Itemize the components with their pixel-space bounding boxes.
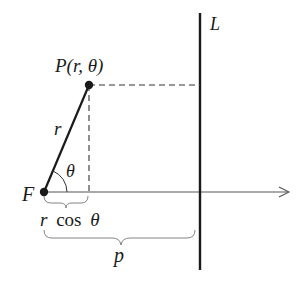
point-p-label: P(r, θ): [54, 55, 103, 77]
radius-label: r: [54, 118, 62, 139]
r-cos-theta-label: r cos θ: [40, 209, 100, 230]
brace-r-cos-theta: [44, 196, 88, 208]
angle-label: θ: [66, 161, 75, 181]
point-p: [85, 81, 93, 89]
brace-p: [44, 230, 195, 245]
focus-point: [40, 188, 48, 196]
polar-diagram: P(r, θ) L r θ F r cos θ p: [0, 0, 303, 285]
directrix-label: L: [209, 14, 220, 34]
p-label: p: [112, 244, 124, 267]
focus-label: F: [21, 183, 35, 205]
diagram-svg: P(r, θ) L r θ F r cos θ p: [0, 0, 303, 285]
angle-arc: [53, 171, 67, 192]
